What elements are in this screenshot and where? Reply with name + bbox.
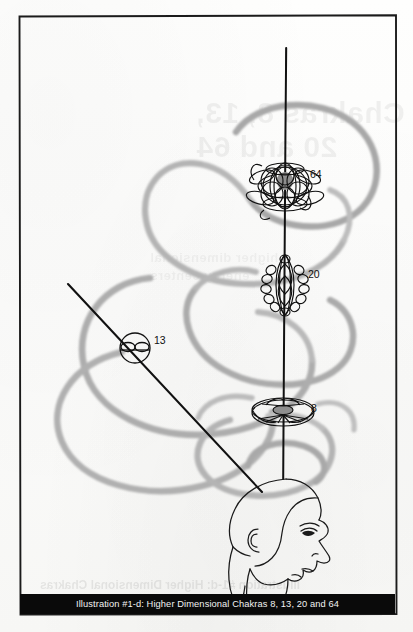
chakra-13-label: 13 xyxy=(154,334,166,346)
illustration-figure: 64 xyxy=(0,0,413,632)
scanned-page: Chakras 8, 13, 20 and 64 higher dimensio… xyxy=(0,0,413,632)
diagonal-axis-line xyxy=(68,284,262,492)
page-frame-border xyxy=(20,15,397,614)
chakra-64-label: 64 xyxy=(310,168,322,180)
illustration-caption-text: Illustration #1-d: Higher Dimensional Ch… xyxy=(76,599,339,609)
chakra-13-glyph xyxy=(120,333,150,363)
illustration-caption-band: Illustration #1-d: Higher Dimensional Ch… xyxy=(20,594,395,614)
background-energy-spiral xyxy=(57,105,376,496)
human-head-profile xyxy=(229,479,330,607)
chakra-8-label: 8 xyxy=(311,402,317,414)
chakra-20-label: 20 xyxy=(308,268,320,280)
